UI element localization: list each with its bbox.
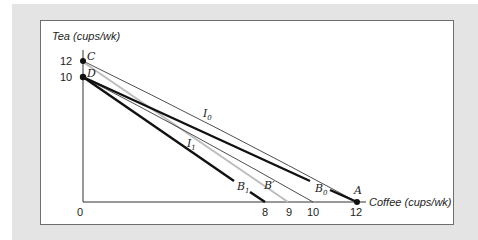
label-c: C [87, 50, 96, 63]
x-tick-9: 9 [286, 206, 292, 218]
budget-line-b1-end [250, 192, 265, 202]
x-tick-8: 8 [262, 206, 268, 218]
budget-line-b0 [83, 77, 310, 181]
x-tick-10: 10 [307, 206, 319, 218]
point-c [80, 58, 86, 64]
y-axis-title: Tea (cups/wk) [52, 30, 120, 42]
label-b-prime: B′ [263, 179, 275, 192]
label-a: A [353, 184, 362, 197]
y-tick-10: 10 [60, 71, 72, 83]
label-i0: I0 [202, 107, 212, 122]
budget-line-b0-end [330, 190, 357, 202]
label-d: D [86, 67, 96, 80]
label-b1: B1 [236, 180, 250, 195]
budget-line-b-prime [83, 62, 288, 202]
point-d [80, 74, 86, 80]
x-tick-0: 0 [77, 206, 83, 218]
x-axis-title: Coffee (cups/wk) [369, 196, 452, 208]
indifference-curve-i0 [83, 61, 357, 202]
label-b0: B0 [314, 182, 328, 197]
y-tick-12: 12 [60, 55, 72, 67]
indifference-diagram: Tea (cups/wk) Coffee (cups/wk) 12 10 0 8… [0, 0, 478, 240]
point-a [354, 199, 360, 205]
x-tick-12: 12 [350, 206, 362, 218]
budget-line-b1 [83, 77, 234, 181]
